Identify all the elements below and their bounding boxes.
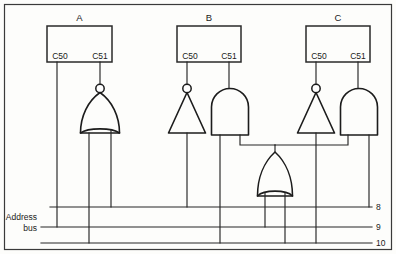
gate-and-c[interactable] (341, 89, 378, 136)
chip-c-pin-c51-label: C51 (350, 51, 366, 61)
gate-inverter-c[interactable] (298, 84, 335, 133)
address-bus-label-line2: bus (23, 223, 37, 233)
and-b-body (212, 89, 249, 136)
gate-and-b[interactable] (212, 89, 249, 136)
chip-c-pin-c50-label: C50 (311, 51, 327, 61)
chip-c-label: C (335, 12, 342, 23)
circuit-diagram: A C50 C51 B C50 C51 C C50 C51 (0, 0, 396, 254)
gate-or-mid[interactable] (258, 152, 293, 196)
bus-label-8: 8 (376, 202, 381, 212)
chip-a-pin-c51-label: C51 (92, 51, 108, 61)
address-bus: Address bus 8 9 10 (6, 202, 386, 248)
inverter-c-bubble-icon (312, 84, 320, 92)
inverter-b-body (169, 93, 206, 134)
bus-label-10: 10 (376, 238, 386, 248)
chip-a-label: A (76, 12, 83, 23)
nor-a-bubble-icon (96, 84, 104, 92)
chip-b[interactable]: B C50 C51 (177, 12, 241, 62)
bus-label-9: 9 (376, 222, 381, 232)
inverter-c-body (298, 93, 335, 134)
gate-inverter-b[interactable] (169, 84, 206, 133)
or-mid-body (258, 152, 293, 196)
chip-a-pin-c50-label: C50 (52, 51, 68, 61)
nor-a-body (81, 93, 120, 134)
chip-a[interactable]: A C50 C51 (47, 12, 112, 62)
chip-b-pin-c50-label: C50 (182, 51, 198, 61)
chip-b-pin-c51-label: C51 (221, 51, 237, 61)
and-c-body (341, 89, 378, 136)
diagram-frame (5, 5, 392, 250)
inverter-b-bubble-icon (183, 84, 191, 92)
wire-and-b-in2-to-or (240, 135, 275, 145)
chip-c[interactable]: C C50 C51 (306, 12, 370, 62)
gate-nor-a[interactable] (81, 84, 120, 133)
diagram-svg: A C50 C51 B C50 C51 C C50 C51 (0, 0, 396, 254)
chip-b-label: B (206, 12, 212, 23)
wire-and-c-in1-to-or (275, 135, 348, 145)
address-bus-label-line1: Address (6, 212, 37, 222)
